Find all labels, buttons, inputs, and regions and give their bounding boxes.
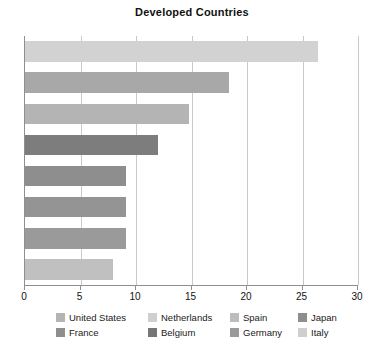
legend-label: Spain [243,312,267,323]
legend-swatch-icon [298,313,307,322]
legend-label: United States [69,312,126,323]
x-tick-20 [246,286,247,290]
legend-label: France [69,327,99,338]
legend-swatch-icon [230,328,239,337]
legend-swatch-icon [148,313,157,322]
legend-label: Italy [311,327,328,338]
bar-chart: Developed Countries 051015202530 United … [0,0,384,354]
x-tick-5 [80,286,81,290]
bar-italy [25,259,113,280]
legend-swatch-icon [230,313,239,322]
legend-item-italy[interactable]: Italy [298,325,356,340]
x-tick-30 [357,286,358,290]
x-tick-0 [24,286,25,290]
x-tick-label-15: 15 [176,291,206,303]
x-tick-label-20: 20 [231,291,261,303]
legend-swatch-icon [148,328,157,337]
x-tick-25 [302,286,303,290]
legend-item-netherlands[interactable]: Netherlands [148,310,230,325]
bar-row [25,135,358,156]
bar-japan [25,135,158,156]
legend-item-belgium[interactable]: Belgium [148,325,230,340]
bar-row [25,72,358,93]
x-tick-15 [191,286,192,290]
x-tick-label-30: 30 [342,291,372,303]
bar-germany [25,228,126,249]
gridline-30 [358,36,359,285]
bar-row [25,104,358,125]
x-tick-10 [135,286,136,290]
bar-united-states [25,41,318,62]
legend-swatch-icon [56,313,65,322]
x-tick-label-5: 5 [65,291,95,303]
legend-item-spain[interactable]: Spain [230,310,298,325]
legend-row: FranceBelgiumGermanyItaly [56,325,356,340]
legend-item-france[interactable]: France [56,325,148,340]
legend-label: Belgium [161,327,195,338]
legend-item-united-states[interactable]: United States [56,310,148,325]
bar-row [25,228,358,249]
legend-label: Netherlands [161,312,212,323]
bar-series [25,36,358,285]
legend-swatch-icon [56,328,65,337]
bar-row [25,259,358,280]
bar-row [25,41,358,62]
legend-item-japan[interactable]: Japan [298,310,356,325]
bar-netherlands [25,72,229,93]
x-tick-label-25: 25 [287,291,317,303]
x-tick-label-10: 10 [120,291,150,303]
bar-row [25,166,358,187]
legend-label: Germany [243,327,282,338]
chart-title: Developed Countries [0,5,384,19]
bar-belgium [25,197,126,218]
bar-row [25,197,358,218]
legend-row: United StatesNetherlandsSpainJapan [56,310,356,325]
legend-item-germany[interactable]: Germany [230,325,298,340]
legend-label: Japan [311,312,337,323]
x-tick-label-0: 0 [9,291,39,303]
bar-france [25,166,126,187]
bar-spain [25,104,189,125]
plot-area [24,36,358,286]
legend-swatch-icon [298,328,307,337]
chart-legend: United StatesNetherlandsSpainJapanFrance… [56,310,356,340]
